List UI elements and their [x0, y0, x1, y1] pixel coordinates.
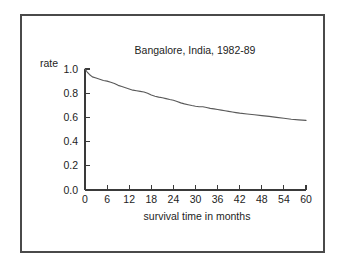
x-tick-label: 30 — [190, 193, 202, 205]
x-tick-label: 0 — [82, 193, 88, 205]
y-tick-label: 0.0 — [63, 184, 78, 196]
x-axis-tick-marks — [85, 185, 306, 190]
x-tick-label: 48 — [256, 193, 268, 205]
x-axis-title: survival time in months — [144, 210, 251, 222]
chart-title: Bangalore, India, 1982-89 — [135, 44, 256, 56]
chart-svg: Bangalore, India, 1982-89 rate 0.00.20.4… — [0, 0, 346, 267]
y-axis-tick-labels: 0.00.20.40.60.81.0 — [63, 63, 78, 196]
x-tick-label: 36 — [212, 193, 224, 205]
y-tick-label: 0.4 — [63, 135, 78, 147]
y-tick-label: 1.0 — [63, 63, 78, 75]
y-tick-label: 0.2 — [63, 159, 78, 171]
x-axis-tick-labels: 06121824303642485460 — [82, 193, 312, 205]
x-tick-label: 42 — [234, 193, 246, 205]
x-tick-label: 12 — [123, 193, 135, 205]
survival-rate-curve — [85, 69, 306, 120]
x-tick-label: 18 — [145, 193, 157, 205]
x-tick-label: 54 — [278, 193, 290, 205]
y-tick-label: 0.8 — [63, 87, 78, 99]
x-tick-label: 24 — [168, 193, 180, 205]
x-tick-label: 60 — [300, 193, 312, 205]
survival-chart: Bangalore, India, 1982-89 rate 0.00.20.4… — [0, 0, 346, 267]
y-axis-title: rate — [40, 57, 58, 69]
y-axis-tick-marks — [85, 69, 90, 190]
y-tick-label: 0.6 — [63, 111, 78, 123]
x-tick-label: 6 — [104, 193, 110, 205]
